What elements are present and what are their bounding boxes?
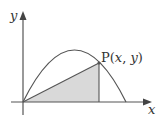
y-axis-arrow-icon bbox=[20, 11, 27, 20]
x-axis-label: x bbox=[148, 102, 156, 117]
point-p-label: P(x, y) bbox=[101, 50, 143, 65]
diagram-canvas: y x P(x, y) bbox=[0, 0, 161, 118]
y-axis-label: y bbox=[9, 8, 18, 23]
